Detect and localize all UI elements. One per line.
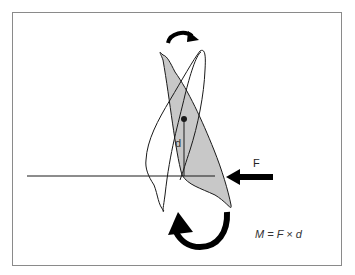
distance-label: d [175,137,181,149]
top-rotation-arrow-icon [168,31,199,43]
force-arrow-icon [226,169,273,185]
moment-equation: M = F × d [255,228,302,240]
bottom-rotation-arrow-icon [168,212,227,247]
force-label: F [253,157,260,169]
